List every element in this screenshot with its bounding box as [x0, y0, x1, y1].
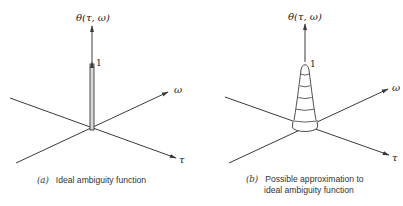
panel-a-caption-text: Ideal ambiguity function [56, 175, 147, 185]
panel-b: θ(τ, ω) 1 ω τ (b) Possible approximation… [225, 11, 400, 195]
panel-a-omega-label: ω [174, 84, 182, 95]
panel-b-peak-label: 1 [310, 59, 316, 69]
panel-a-theta-label: θ(τ, ω) [76, 12, 110, 23]
panel-a: θ(τ, ω) 1 ω τ (a) Ideal ambiguity functi… [10, 12, 185, 186]
panel-b-caption-line-2: ideal ambiguity function [264, 185, 354, 195]
panel-a-caption-tag: (a) [37, 175, 49, 185]
panel-a-tau-label: τ [179, 154, 185, 165]
panel-b-omega-label: ω [392, 82, 400, 93]
panel-a-ideal-spike [90, 64, 94, 130]
panel-b-caption-tag: (b) [246, 174, 258, 184]
panel-b-theta-label: θ(τ, ω) [288, 11, 322, 22]
panel-b-caption-line-1: (b) Possible approximation to [246, 168, 364, 185]
panel-b-caption-text-1: Possible approximation to [265, 174, 364, 184]
ambiguity-function-figure: θ(τ, ω) 1 ω τ (a) Ideal ambiguity functi… [0, 0, 403, 206]
panel-a-caption: (a) Ideal ambiguity function [37, 169, 146, 186]
panel-a-peak-label: 1 [96, 58, 102, 68]
panel-b-tau-label: τ [392, 152, 398, 163]
panel-b-approx-cone [293, 65, 317, 126]
